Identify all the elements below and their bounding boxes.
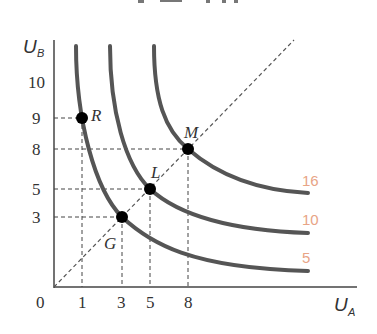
svg-text:U: U xyxy=(334,294,348,315)
x-tick-8: 8 xyxy=(184,293,193,312)
origin-label: 0 xyxy=(36,293,45,312)
x-axis-title: U A xyxy=(334,294,355,318)
curve-label-10: 10 xyxy=(302,211,319,228)
point-label-r: R xyxy=(90,106,102,125)
cut-title-fragment xyxy=(138,0,238,3)
point-l xyxy=(144,183,156,195)
y-tick-8: 8 xyxy=(32,140,41,159)
curve-16 xyxy=(154,46,308,193)
y-axis-title: U B xyxy=(23,36,44,59)
point-label-l: L xyxy=(150,163,160,182)
y-tick-3: 3 xyxy=(32,208,41,227)
y-tick-10: 10 xyxy=(28,73,45,92)
utility-possibility-chart: R G L M 16 10 5 10 9 8 5 3 0 1 3 5 8 U B… xyxy=(0,0,377,334)
y-tick-5: 5 xyxy=(32,180,41,199)
curve-label-16: 16 xyxy=(302,172,319,189)
point-r xyxy=(76,112,88,124)
curve-label-5: 5 xyxy=(302,249,310,266)
x-tick-3: 3 xyxy=(117,293,126,312)
y-tick-9: 9 xyxy=(32,109,41,128)
svg-text:U: U xyxy=(23,36,37,57)
x-tick-5: 5 xyxy=(146,293,155,312)
svg-text:B: B xyxy=(37,47,44,59)
curve-10 xyxy=(110,46,308,233)
svg-text:A: A xyxy=(347,306,355,318)
point-m xyxy=(182,143,194,155)
point-label-g: G xyxy=(104,234,116,253)
point-label-m: M xyxy=(183,123,199,142)
point-g xyxy=(116,211,128,223)
x-tick-1: 1 xyxy=(78,293,87,312)
